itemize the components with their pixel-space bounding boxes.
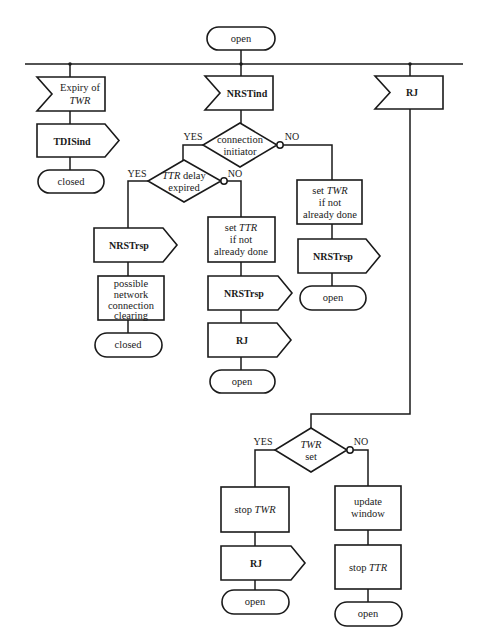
label-yes: YES — [184, 131, 203, 142]
state-open-d: open — [335, 602, 402, 626]
svg-text:TWR: TWR — [301, 439, 323, 450]
state-open-b: open — [300, 286, 366, 310]
svg-text:window: window — [351, 508, 385, 519]
svg-text:update: update — [354, 496, 382, 507]
svg-text:NRSTrsp: NRSTrsp — [313, 251, 353, 262]
sdl-flowchart: open Expiry of TWR TDISind closed NRSTin… — [0, 0, 487, 643]
input-nrstind: NRSTind — [205, 76, 273, 110]
svg-text:RJ: RJ — [236, 335, 248, 346]
svg-text:initiator: initiator — [223, 146, 257, 157]
svg-text:open: open — [358, 608, 379, 619]
decision-ttr-delay-expired: TTR delay expired — [148, 160, 221, 202]
task-possible-network-connection-clearing: possible network connection clearing — [98, 276, 164, 321]
label-no: NO — [228, 168, 242, 179]
svg-text:set TTR: set TTR — [225, 222, 258, 233]
label-no: NO — [285, 131, 299, 142]
svg-text:TTR delay: TTR delay — [162, 170, 206, 181]
svg-text:expired: expired — [168, 182, 200, 193]
output-nrstrsp-c: NRSTrsp — [298, 239, 380, 273]
svg-text:NRSTrsp: NRSTrsp — [109, 240, 149, 251]
svg-text:TDISind: TDISind — [53, 136, 91, 147]
svg-text:possible: possible — [114, 278, 149, 289]
svg-text:already done: already done — [214, 246, 268, 257]
svg-text:open: open — [323, 292, 344, 303]
label-yes: YES — [254, 436, 273, 447]
svg-text:set TWR: set TWR — [312, 185, 348, 196]
svg-text:clearing: clearing — [114, 310, 149, 321]
svg-text:open: open — [232, 376, 253, 387]
svg-text:open: open — [245, 596, 266, 607]
state-open-c: open — [222, 590, 289, 614]
svg-text:NRSTrsp: NRSTrsp — [224, 288, 264, 299]
svg-text:NRSTind: NRSTind — [227, 88, 268, 99]
output-rj-b: RJ — [221, 546, 305, 580]
svg-text:RJ: RJ — [250, 558, 262, 569]
label-no: NO — [354, 436, 368, 447]
output-nrstrsp-b: NRSTrsp — [208, 276, 292, 310]
decision-twr-set: TWR set — [275, 428, 347, 472]
svg-text:open: open — [231, 33, 252, 44]
svg-text:set: set — [305, 451, 317, 462]
svg-text:closed: closed — [58, 176, 86, 187]
decision-connection-initiator: connection initiator — [203, 123, 277, 167]
output-nrstrsp-a: NRSTrsp — [94, 228, 177, 262]
svg-text:stop TWR: stop TWR — [234, 504, 276, 515]
state-closed-2: closed — [95, 333, 162, 357]
input-rj: RJ — [375, 76, 443, 109]
state-open-start: open — [207, 27, 275, 50]
svg-text:if not: if not — [230, 234, 253, 245]
output-rj-a: RJ — [208, 323, 291, 357]
svg-text:closed: closed — [115, 339, 143, 350]
task-set-ttr: set TTR if not already done — [208, 217, 275, 262]
svg-text:RJ: RJ — [406, 87, 418, 98]
task-stop-ttr: stop TTR — [335, 545, 401, 589]
input-expiry-of-twr: Expiry of TWR — [37, 77, 105, 111]
svg-text:network: network — [114, 289, 149, 300]
svg-text:Expiry of: Expiry of — [60, 82, 100, 93]
label-yes: YES — [128, 168, 147, 179]
output-tdisind: TDISind — [37, 124, 119, 157]
svg-text:stop TTR: stop TTR — [349, 562, 388, 573]
state-closed-1: closed — [38, 170, 104, 193]
svg-text:if not: if not — [319, 197, 342, 208]
svg-text:already done: already done — [303, 209, 357, 220]
svg-text:connection: connection — [217, 134, 264, 145]
task-set-twr: set TWR if not already done — [297, 180, 362, 224]
state-open-a: open — [210, 370, 275, 393]
task-stop-twr: stop TWR — [221, 487, 289, 532]
task-update-window: update window — [335, 486, 401, 530]
svg-text:TWR: TWR — [70, 95, 92, 106]
